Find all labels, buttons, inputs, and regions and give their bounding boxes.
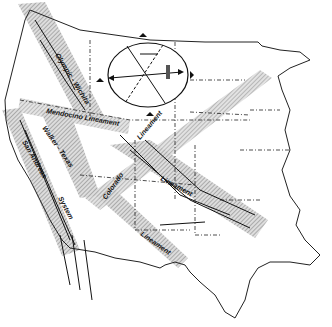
marker-north	[139, 33, 147, 37]
marker-east	[190, 71, 194, 79]
marker-west	[96, 78, 104, 82]
lineament-map: Olympic - Wichita Mendocino Lineament Wa…	[0, 0, 332, 327]
stress-ellipse-icon	[108, 43, 188, 107]
